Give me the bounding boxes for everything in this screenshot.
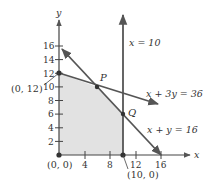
equation-label-x-plus-y-equals-16: x + y = 16 [147, 124, 198, 135]
x-tick-label: 8 [107, 160, 113, 170]
feasible-region-graph: x y 4 8 12 16 2 4 6 8 10 12 14 16 x = 10… [0, 0, 208, 193]
y-tick-label: 2 [48, 137, 54, 147]
y-tick-label: 4 [48, 123, 54, 133]
vertex-q [121, 112, 125, 116]
y-tick-label: 14 [43, 55, 55, 65]
point-label-10-0: (10, 0) [127, 169, 159, 180]
y-tick-label: 16 [43, 41, 55, 51]
feasible-region [59, 73, 123, 155]
y-tick-label: 6 [48, 109, 54, 119]
leader-10-0 [123, 155, 128, 169]
y-axis-label: y [55, 7, 62, 18]
equation-label-x-equals-10: x = 10 [129, 37, 160, 48]
x-tick-label: 4 [82, 160, 88, 170]
point-label-origin: (0, 0) [47, 159, 73, 170]
vertex-origin [56, 152, 61, 157]
equation-label-x-plus-3y-equals-36: x + 3y = 36 [146, 88, 203, 99]
point-label-p: P [99, 72, 107, 83]
point-label-0-12: (0, 12) [11, 83, 43, 94]
y-tick-label: 12 [43, 69, 54, 79]
vertex-p [95, 85, 99, 89]
x-axis-label: x [194, 149, 200, 160]
y-tick-label: 8 [48, 96, 54, 106]
point-label-q: Q [128, 107, 136, 118]
y-tick-label: 10 [43, 82, 55, 92]
